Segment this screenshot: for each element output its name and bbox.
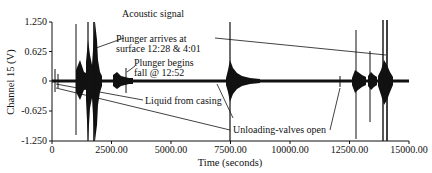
- annotations: Plunger arrives at surface 12:28 & 4:01 …: [116, 33, 326, 135]
- annotation-unloading-valves: Unloading-valves open: [233, 124, 326, 135]
- annotation-leaders: [56, 38, 386, 130]
- x-axis-label: Time (seconds): [198, 157, 263, 169]
- y-tick-labels: 1.250 0.625 0 -0.625 -1.250: [21, 16, 47, 146]
- y-tick: 0.625: [25, 46, 48, 57]
- x-tick: 2500.00: [95, 144, 128, 155]
- y-tick: 1.250: [25, 16, 48, 27]
- y-axis-label: Channel 15 (V): [5, 49, 17, 115]
- y-tick: -1.250: [21, 135, 47, 146]
- x-tick: 7500.00: [214, 144, 247, 155]
- x-tick-labels: 0 2500.00 5000.00 7500.00 10000.00 12500…: [50, 144, 428, 155]
- y-tick: -0.625: [21, 105, 47, 116]
- annotation-liquid-from-casing: Liquid from casing: [145, 95, 222, 106]
- y-tick: 0: [42, 75, 47, 86]
- annotation-plunger-arrives-line2: surface 12:28 & 4:01: [116, 43, 201, 54]
- x-tick: 15000.00: [390, 144, 428, 155]
- chart-title: Acoustic signal: [122, 8, 184, 19]
- acoustic-signal-chart: 1.250 0.625 0 -0.625 -1.250 0 2500.00 50…: [0, 0, 432, 173]
- signal-trace: [52, 20, 409, 141]
- annotation-plunger-begins-line2: fall @ 12:52: [134, 67, 184, 78]
- x-tick: 0: [50, 144, 55, 155]
- x-tick: 5000.00: [155, 144, 188, 155]
- x-tick: 12500.00: [331, 144, 369, 155]
- x-tick: 10000.00: [271, 144, 309, 155]
